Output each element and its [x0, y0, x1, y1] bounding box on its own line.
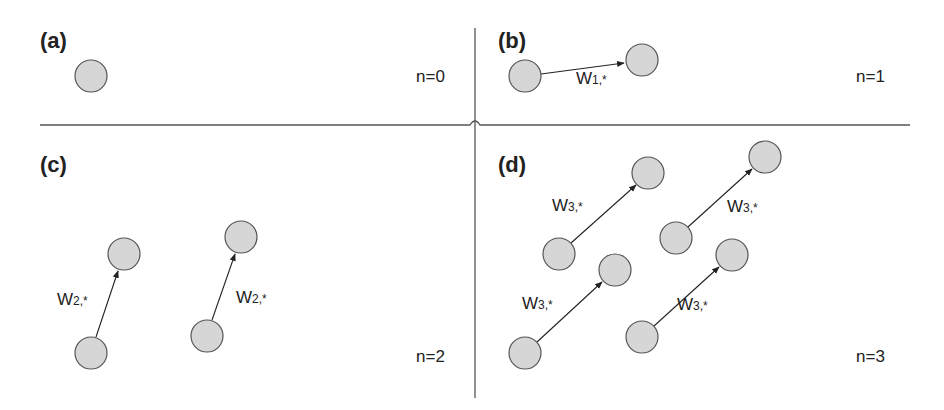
- quadrant-dividers: [40, 28, 910, 398]
- node: [632, 157, 664, 189]
- panel-d-label: (d): [498, 152, 526, 177]
- weight-label: W2,*: [57, 290, 88, 309]
- diagram-canvas: (a) n=0 (b) n=1 W1,* (c) n=2 W2,* W2,* (…: [0, 0, 944, 410]
- node: [660, 222, 692, 254]
- panel-c: (c) n=2 W2,* W2,*: [40, 152, 445, 369]
- node: [626, 44, 658, 76]
- node: [509, 60, 541, 92]
- panel-a-n-label: n=0: [416, 67, 445, 86]
- panel-d-n-label: n=3: [856, 347, 885, 366]
- node: [599, 254, 631, 286]
- panel-b-n-label: n=1: [856, 67, 885, 86]
- node: [543, 238, 575, 270]
- weight-label: W3,*: [522, 294, 553, 313]
- panel-c-n-label: n=2: [416, 347, 445, 366]
- weight-arrow: [537, 282, 602, 342]
- panel-b: (b) n=1 W1,*: [498, 28, 885, 92]
- panel-c-label: (c): [40, 152, 67, 177]
- panel-a-label: (a): [40, 28, 67, 53]
- panel-b-label: (b): [498, 28, 526, 53]
- node: [716, 239, 748, 271]
- weight-label: W3,*: [727, 197, 758, 216]
- weight-label: W3,*: [677, 295, 708, 314]
- weight-arrow: [96, 271, 118, 337]
- weight-arrow: [571, 185, 636, 243]
- node: [75, 60, 107, 92]
- panel-a: (a) n=0: [40, 28, 445, 92]
- node: [191, 320, 223, 352]
- node: [626, 321, 658, 353]
- weight-label: W3,*: [552, 196, 583, 215]
- node: [509, 337, 541, 369]
- node: [108, 238, 140, 270]
- node: [749, 141, 781, 173]
- node: [225, 221, 257, 253]
- weight-arrow: [212, 254, 235, 320]
- weight-label: W2,*: [236, 288, 267, 307]
- weight-label: W1,*: [576, 69, 607, 88]
- node: [75, 337, 107, 369]
- panel-d: (d) n=3 W3,* W3,* W3,* W3,*: [498, 141, 885, 369]
